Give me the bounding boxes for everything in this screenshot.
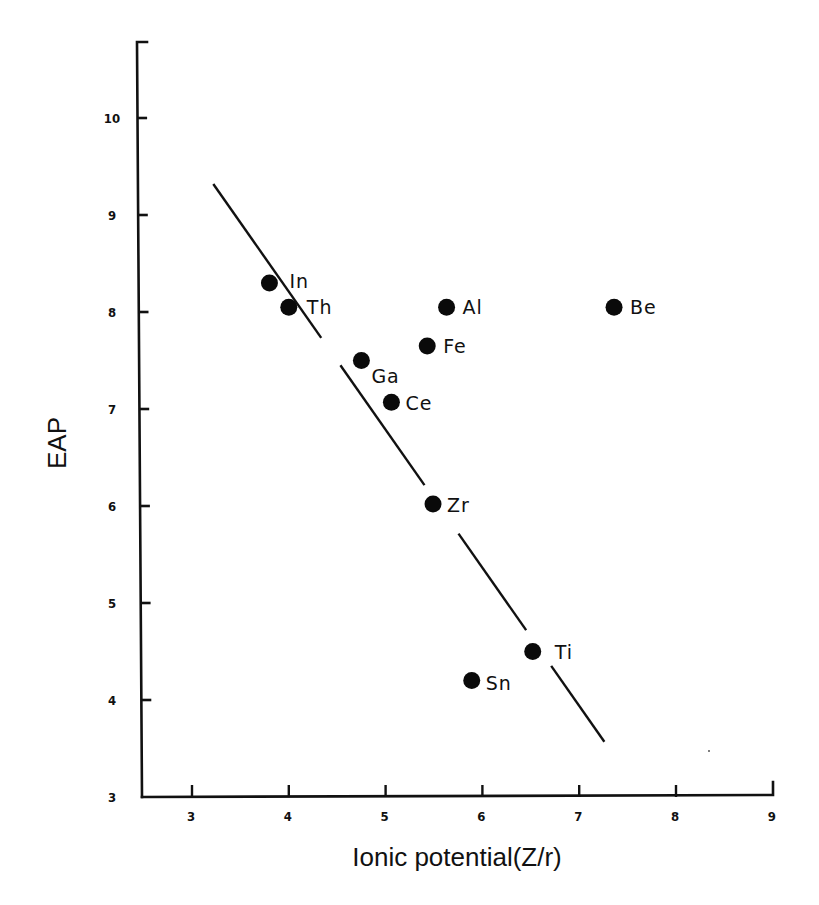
point-marker bbox=[438, 299, 455, 316]
data-points: InThAlBeFeGaCeZrTiSn bbox=[261, 270, 657, 694]
data-point-ce: Ce bbox=[383, 392, 432, 414]
y-tick-label: 7 bbox=[108, 402, 116, 417]
point-label: Be bbox=[630, 296, 657, 318]
point-label: Sn bbox=[486, 672, 512, 694]
y-axis-line bbox=[137, 42, 147, 797]
y-tick-label: 3 bbox=[108, 790, 116, 805]
point-marker bbox=[419, 337, 436, 354]
y-tick-label: 10 bbox=[104, 111, 120, 126]
trend-line-segment bbox=[213, 184, 321, 338]
scatter-chart: 345678910 3456789 InThAlBeFeGaCeZrTiSn I… bbox=[0, 0, 819, 905]
trend-line bbox=[213, 184, 604, 742]
speck bbox=[708, 750, 710, 752]
x-ticks: 3456789 bbox=[187, 785, 776, 824]
point-label: Fe bbox=[443, 335, 467, 357]
point-marker bbox=[606, 299, 623, 316]
data-point-th: Th bbox=[280, 296, 332, 318]
axes bbox=[137, 42, 773, 797]
point-marker bbox=[353, 352, 370, 369]
point-marker bbox=[261, 274, 278, 291]
data-point-fe: Fe bbox=[419, 335, 467, 357]
point-marker bbox=[383, 394, 400, 411]
x-tick-label: 5 bbox=[381, 809, 389, 824]
point-label: Al bbox=[463, 296, 483, 318]
data-point-zr: Zr bbox=[425, 494, 470, 516]
y-tick-label: 8 bbox=[108, 305, 116, 320]
trend-line-segment bbox=[551, 666, 604, 742]
data-point-in: In bbox=[261, 270, 309, 292]
x-tick-label: 4 bbox=[284, 809, 292, 824]
y-ticks: 345678910 bbox=[104, 111, 151, 805]
y-tick-label: 9 bbox=[108, 208, 116, 223]
point-label: Ti bbox=[554, 641, 573, 663]
trend-line-segment bbox=[458, 534, 526, 630]
point-label: Zr bbox=[447, 494, 470, 516]
point-marker bbox=[280, 299, 297, 316]
y-axis-title: EAP bbox=[42, 417, 72, 469]
data-point-al: Al bbox=[438, 296, 483, 318]
point-marker bbox=[524, 643, 541, 660]
x-tick-label: 9 bbox=[768, 809, 776, 824]
data-point-sn: Sn bbox=[463, 672, 512, 694]
point-label: Ga bbox=[371, 365, 399, 387]
data-point-ti: Ti bbox=[524, 641, 573, 663]
point-label: In bbox=[289, 270, 309, 292]
x-tick-label: 6 bbox=[477, 809, 485, 824]
data-point-be: Be bbox=[606, 296, 657, 318]
x-tick-label: 8 bbox=[671, 809, 679, 824]
data-point-ga: Ga bbox=[353, 352, 400, 387]
point-label: Ce bbox=[405, 392, 432, 414]
point-marker bbox=[463, 672, 480, 689]
x-tick-label: 3 bbox=[187, 809, 195, 824]
x-axis-line bbox=[142, 782, 773, 797]
point-label: Th bbox=[306, 296, 333, 318]
y-tick-label: 5 bbox=[108, 596, 116, 611]
x-axis-title: Ionic potential(Z/r) bbox=[352, 842, 562, 872]
point-marker bbox=[425, 496, 442, 513]
x-tick-label: 7 bbox=[574, 809, 582, 824]
y-tick-label: 6 bbox=[108, 499, 116, 514]
y-tick-label: 4 bbox=[108, 693, 116, 708]
